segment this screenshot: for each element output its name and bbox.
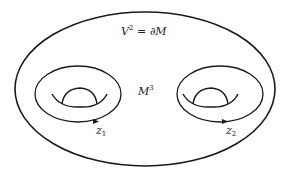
boundary-label-base: V (121, 25, 129, 38)
torus-right-hole-lower (183, 94, 238, 107)
torus-left-hole-lower (52, 94, 107, 107)
torus-left-cycle (35, 66, 121, 122)
torus-right-cycle (177, 66, 263, 122)
cycle-label-z1-sub: 1 (102, 130, 106, 138)
torus-left-hole-upper (62, 88, 97, 104)
interior-label-base: M (138, 85, 149, 98)
interior-label: M3 (138, 84, 154, 98)
torus-left (35, 66, 121, 124)
torus-right-hole-upper (193, 88, 228, 104)
cycle-label-z2: z2 (226, 124, 236, 138)
cycle-label-z2-sub: 2 (232, 130, 236, 138)
boundary-label-rest: = ∂M (133, 25, 166, 38)
cycle-label-z1: z1 (96, 124, 106, 138)
boundary-label: V2 = ∂M (121, 24, 167, 38)
torus-right (177, 66, 263, 124)
interior-label-sup: 3 (149, 84, 153, 92)
